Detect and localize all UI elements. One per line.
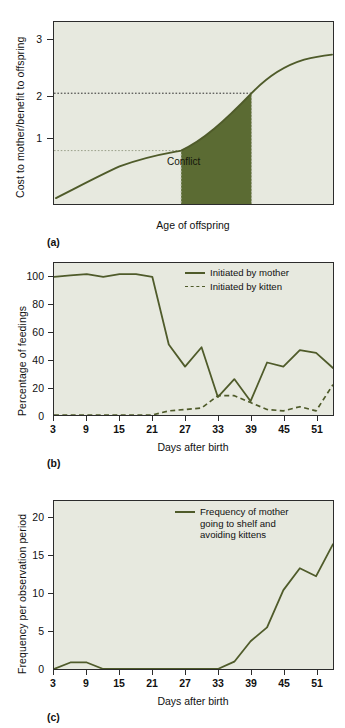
panel-c-xtick-21: 21 [142,677,162,689]
panel-c-xtickmark-9 [86,670,87,675]
panel-a-svg [54,22,333,204]
panel-c-ytick-0: 0 [22,663,44,675]
panel-b-xtickmark-51 [317,416,318,421]
panel-b-xtickmark-45 [284,416,285,421]
dashed-line-key-icon [185,281,205,292]
panel-a-ytick-3: 3 [26,33,42,45]
panel-c-plot-area: Frequency of mother going to shelf and a… [53,500,334,670]
panel-a-x-axis-label: Age of offspring [113,219,273,231]
panel-b-legend-item-mother: Initiated by mother [185,267,289,279]
panel-b-legend-item-kitten: Initiated by kitten [185,281,289,293]
panel-a-ytick-2: 2 [26,90,42,102]
panel-b-plot-area: Initiated by mother Initiated by kitten [53,262,334,416]
panel-b-xtick-9: 9 [76,423,96,435]
panel-b-xtick-15: 15 [109,423,129,435]
panel-c-xtick-39: 39 [241,677,261,689]
panel-b-xtick-33: 33 [208,423,228,435]
panel-b-ytick-20: 20 [22,382,44,394]
panel-b-xtickmark-21 [152,416,153,421]
panel-a-plot-area: Conflict [53,21,334,205]
panel-b-tag: (b) [47,457,60,469]
panel-c-xtickmark-33 [218,670,219,675]
panel-c-xtickmark-39 [251,670,252,675]
panel-a-tag: (a) [47,236,60,248]
panel-c-ytick-5: 5 [22,625,44,637]
panel-c-xtick-9: 9 [76,677,96,689]
panel-a-y-axis-label: Cost to mother/benefit to offspring [14,37,26,198]
panel-c-xtick-51: 51 [307,677,327,689]
panel-b-ytick-80: 80 [22,298,44,310]
panel-b-xtick-21: 21 [142,423,162,435]
panel-b-series-kitten [54,385,333,415]
panel-b-xtickmark-27 [185,416,186,421]
panel-c-x-axis-label: Days after birth [113,695,273,707]
panel-c-ytick-20: 20 [22,511,44,523]
panel-b: Percentage of feedings 100 80 60 40 20 0… [0,250,345,478]
panel-b-xtick-45: 45 [274,423,294,435]
panel-c: Frequency per observation period 20 15 1… [0,478,345,728]
panel-a: Cost to mother/benefit to offspring 3 2 … [0,0,345,250]
panel-c-ytick-10: 10 [22,587,44,599]
panel-b-legend: Initiated by mother Initiated by kitten [185,267,289,294]
panel-b-xtickmark-15 [119,416,120,421]
solid-line-key-icon [185,267,205,278]
panel-b-x-axis-label: Days after birth [113,441,273,453]
panel-c-legend: Frequency of mother going to shelf and a… [175,506,289,543]
panel-b-xtickmark-39 [251,416,252,421]
panel-c-xtick-3: 3 [43,677,63,689]
panel-a-conflict-annotation: Conflict [167,156,200,167]
panel-a-ytick-1: 1 [26,132,42,144]
panel-c-ytick-15: 15 [22,549,44,561]
panel-c-xtickmark-45 [284,670,285,675]
panel-b-ytick-100: 100 [22,270,44,282]
panel-a-conflict-fill [181,93,251,204]
panel-b-legend-label-kitten: Initiated by kitten [210,281,282,293]
panel-c-tag: (c) [47,711,60,723]
panel-b-ytick-60: 60 [22,326,44,338]
panel-b-legend-label-mother: Initiated by mother [210,267,289,279]
panel-c-xtick-15: 15 [109,677,129,689]
panel-c-xtick-33: 33 [208,677,228,689]
panel-c-xtickmark-3 [53,670,54,675]
panel-b-ytick-0: 0 [22,410,44,422]
panel-b-xtickmark-9 [86,416,87,421]
panel-c-legend-label-shelf: Frequency of mother going to shelf and a… [200,506,289,541]
figure-parent-offspring-conflict: Cost to mother/benefit to offspring 3 2 … [0,0,345,728]
panel-c-xtickmark-15 [119,670,120,675]
panel-c-legend-item-shelf: Frequency of mother going to shelf and a… [175,506,289,541]
panel-b-xtickmark-3 [53,416,54,421]
panel-c-xtick-27: 27 [175,677,195,689]
panel-c-xtickmark-21 [152,670,153,675]
panel-c-xtickmark-51 [317,670,318,675]
panel-b-xtick-27: 27 [175,423,195,435]
solid-line-key-icon [175,506,195,517]
panel-c-xtick-45: 45 [274,677,294,689]
panel-c-xtickmark-27 [185,670,186,675]
panel-c-series-shelf [54,544,333,669]
panel-b-xtick-51: 51 [307,423,327,435]
panel-b-xtick-39: 39 [241,423,261,435]
panel-b-xtick-3: 3 [43,423,63,435]
panel-b-xtickmark-33 [218,416,219,421]
panel-b-ytick-40: 40 [22,354,44,366]
